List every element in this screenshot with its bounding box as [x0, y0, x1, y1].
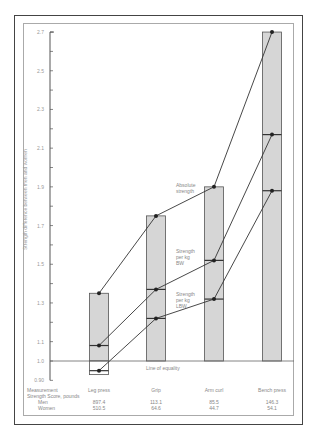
legend-lbw: Strength per kg LBW: [176, 291, 195, 309]
category-label: Arm curl: [194, 387, 234, 393]
data-point: [270, 30, 274, 34]
y-tick-label: 1.0: [24, 358, 44, 364]
data-point: [97, 344, 101, 348]
data-point: [270, 133, 274, 137]
data-point: [154, 214, 158, 218]
bar-3: [263, 32, 282, 361]
bar-2: [205, 187, 224, 361]
data-point: [154, 316, 158, 320]
score-label: Strength Score, pounds: [27, 393, 80, 399]
legend-bw: Strength per kg BW: [176, 248, 195, 266]
data-point: [270, 189, 274, 193]
series-line-2: [99, 191, 272, 371]
y-tick-label: 1.1: [24, 339, 44, 345]
data-point: [97, 369, 101, 373]
data-point: [212, 185, 216, 189]
table-value: 510.5: [79, 405, 119, 411]
data-point: [97, 291, 101, 295]
bar-0: [90, 293, 109, 361]
y-tick-label: 1.3: [24, 300, 44, 306]
y-tick-label: 2.5: [24, 68, 44, 74]
women-label: Women: [38, 405, 55, 411]
table-value: 64.6: [136, 405, 176, 411]
y-tick-label: 2.3: [24, 106, 44, 112]
y-tick-label: 1.5: [24, 261, 44, 267]
y-tick-label: 0.90: [24, 377, 44, 383]
y-tick-label: 1.9: [24, 184, 44, 190]
legend-absolute: Absolute strength: [176, 182, 195, 194]
table-value: 54.1: [252, 405, 292, 411]
data-point: [212, 297, 216, 301]
table-value: 44.7: [194, 405, 234, 411]
y-axis-label: Strength difference between men and wome…: [22, 149, 28, 250]
y-tick-label: 1.7: [24, 223, 44, 229]
category-label: Grip: [136, 387, 176, 393]
category-label: Bench press: [252, 387, 292, 393]
data-point: [212, 258, 216, 262]
y-tick-label: 2.7: [24, 29, 44, 35]
data-point: [154, 287, 158, 291]
line-of-equality-label: Line of equality: [146, 365, 180, 371]
category-label: Leg press: [79, 387, 119, 393]
y-tick-label: 2.1: [24, 145, 44, 151]
